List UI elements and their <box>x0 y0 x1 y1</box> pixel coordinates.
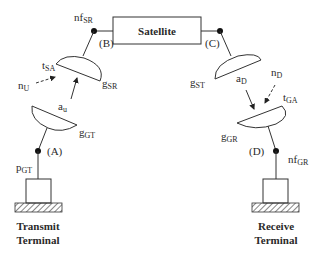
nf-gr-label: nfGR <box>288 153 309 167</box>
node-b-label: (B) <box>99 37 114 50</box>
node-a-label: (A) <box>47 145 63 158</box>
g-gr-label: gGR <box>221 130 238 144</box>
p-gt-label: pGT <box>16 161 32 175</box>
receive-terminal-line1: Receive <box>258 220 294 232</box>
g-gt-label: gGT <box>79 126 95 140</box>
t-ga-label: tGA <box>283 91 298 105</box>
receive-terminal-line2: Terminal <box>255 234 298 246</box>
transmit-terminal-box <box>26 179 51 203</box>
a-d-label: aD <box>236 72 247 86</box>
node-d-label: (D) <box>249 145 265 158</box>
satellite-label: Satellite <box>138 25 176 37</box>
n-u-label: nU <box>18 79 30 93</box>
ground-transmit-antenna <box>32 106 77 130</box>
ground-receive-antenna <box>237 106 286 128</box>
transmit-ground-hatch <box>15 203 62 212</box>
node-c-label: (C) <box>205 37 220 50</box>
n-d-label: nD <box>271 66 283 80</box>
satellite-link-diagram: Satellite (B) (C) nfSR tSA gSR nU au gGT… <box>0 0 320 259</box>
receive-terminal-box <box>263 179 288 203</box>
receive-ground-hatch <box>252 203 299 212</box>
g-st-label: gST <box>190 76 205 90</box>
g-sr-label: gSR <box>102 77 118 91</box>
satellite-box: Satellite <box>113 17 201 44</box>
a-u-label: au <box>58 100 67 114</box>
nf-sr-label: nfSR <box>74 11 94 25</box>
transmit-terminal-line2: Terminal <box>17 234 60 246</box>
transmit-terminal-line1: Transmit <box>16 220 60 232</box>
t-sa-label: tSA <box>42 59 56 73</box>
satellite-receive-antenna <box>56 56 101 81</box>
